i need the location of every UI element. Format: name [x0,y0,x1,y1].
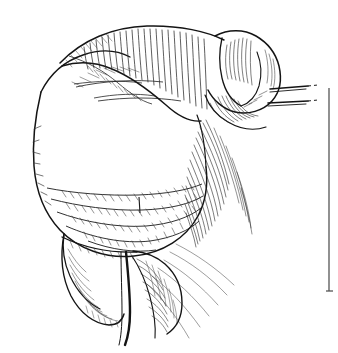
specimen-illustration [0,0,338,353]
figure-container [0,0,338,353]
